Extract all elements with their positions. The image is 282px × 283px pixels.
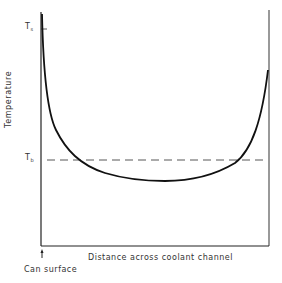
can-surface-label: Can surface <box>24 265 77 274</box>
temperature-curve <box>42 14 268 181</box>
ts-label: Ts <box>25 22 34 32</box>
ts-label-sub: s <box>30 26 33 32</box>
x-axis-label: Distance across coolant channel <box>88 253 233 262</box>
arrow-head-icon <box>41 249 44 253</box>
tb-label-sub: b <box>30 157 34 163</box>
tb-label: Tb <box>25 153 34 163</box>
temperature-profile-diagram <box>0 0 282 283</box>
y-axis-label: Temperature <box>4 71 13 128</box>
